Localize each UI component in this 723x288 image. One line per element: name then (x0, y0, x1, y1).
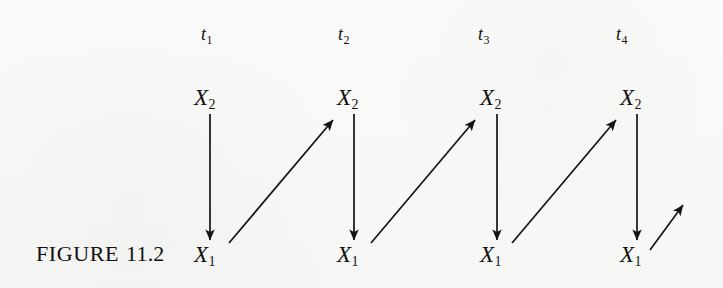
time-label-t3-base: t (478, 24, 483, 44)
variable-label-t4-x2-subscript: 2 (635, 97, 642, 112)
time-label-t2-subscript: 2 (344, 33, 350, 47)
figure-container: FIGURE11.2 t1 t2 t3 t4 X2 X1 X2 X1 X2 X1… (0, 0, 723, 288)
cross-lagged-arrow-t2-to-t3 (371, 120, 475, 243)
variable-label-t4-x1-base: X (620, 242, 634, 267)
time-label-t2-base: t (338, 24, 343, 44)
variable-label-t4-x1: X1 (620, 243, 642, 269)
variable-label-t2-x2-subscript: 2 (352, 97, 359, 112)
variable-label-t3-x2: X2 (480, 86, 502, 112)
time-label-t4-base: t (616, 24, 621, 44)
variable-label-t4-x2: X2 (620, 86, 642, 112)
cross-lagged-arrow-t4-continuation (650, 205, 683, 250)
cross-lagged-arrow-t3-to-t4 (512, 120, 616, 243)
variable-label-t3-x1-base: X (480, 242, 494, 267)
time-label-t4: t4 (616, 25, 628, 46)
variable-label-t1-x2-base: X (194, 85, 208, 110)
time-label-t2: t2 (338, 25, 350, 46)
variable-label-t2-x2-base: X (337, 85, 351, 110)
variable-label-t1-x2: X2 (194, 86, 216, 112)
variable-label-t2-x1: X1 (337, 243, 359, 269)
variable-label-t1-x1-base: X (194, 242, 208, 267)
time-label-t1: t1 (201, 25, 213, 46)
variable-label-t1-x2-subscript: 2 (209, 97, 216, 112)
variable-label-t3-x2-subscript: 2 (495, 97, 502, 112)
variable-label-t4-x2-base: X (620, 85, 634, 110)
time-label-t4-subscript: 4 (622, 33, 628, 47)
time-label-t3-subscript: 3 (484, 33, 490, 47)
figure-caption-word: FIGURE (36, 241, 119, 266)
variable-label-t1-x1: X1 (194, 243, 216, 269)
variable-label-t1-x1-subscript: 1 (209, 254, 216, 269)
cross-lagged-arrow-t1-to-t2 (229, 120, 333, 243)
variable-label-t2-x1-base: X (337, 242, 351, 267)
variable-label-t3-x1-subscript: 1 (495, 254, 502, 269)
vertical-arrow-group (210, 114, 637, 240)
time-label-t3: t3 (478, 25, 490, 46)
variable-label-t4-x1-subscript: 1 (635, 254, 642, 269)
time-label-t1-subscript: 1 (207, 33, 213, 47)
variable-label-t3-x1: X1 (480, 243, 502, 269)
variable-label-t2-x1-subscript: 1 (352, 254, 359, 269)
time-label-t1-base: t (201, 24, 206, 44)
figure-caption: FIGURE11.2 (36, 243, 165, 265)
cross-lagged-arrow-group (229, 120, 683, 250)
figure-caption-number: 11.2 (126, 241, 164, 266)
variable-label-t2-x2: X2 (337, 86, 359, 112)
variable-label-t3-x2-base: X (480, 85, 494, 110)
